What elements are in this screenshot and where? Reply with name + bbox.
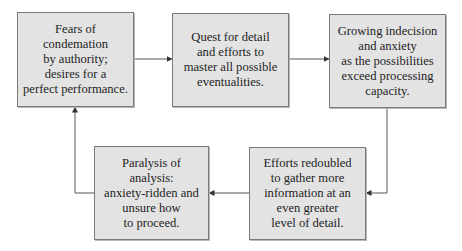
arrow-indecision-to-efforts <box>366 107 387 193</box>
node-fears-of-condemnation: Fears of condemation by authority; desir… <box>17 12 134 107</box>
node-paralysis-of-analysis: Paralysis of analysis: anxiety-ridden an… <box>94 146 209 240</box>
node-label: Paralysis of analysis: anxiety-ridden an… <box>104 156 199 231</box>
node-efforts-redoubled: Efforts redoubled to gather more informa… <box>249 147 366 240</box>
node-label: Quest for detail and efforts to master a… <box>184 30 278 90</box>
flowchart-canvas: Fears of condemation by authority; desir… <box>0 0 462 251</box>
node-label: Efforts redoubled to gather more informa… <box>263 156 351 231</box>
arrow-paralysis-to-fears <box>75 107 94 193</box>
node-label: Fears of condemation by authority; desir… <box>23 22 128 97</box>
node-quest-for-detail: Quest for detail and efforts to master a… <box>172 13 289 107</box>
node-growing-indecision: Growing indecision and anxiety as the po… <box>329 14 446 108</box>
node-label: Growing indecision and anxiety as the po… <box>338 24 438 99</box>
